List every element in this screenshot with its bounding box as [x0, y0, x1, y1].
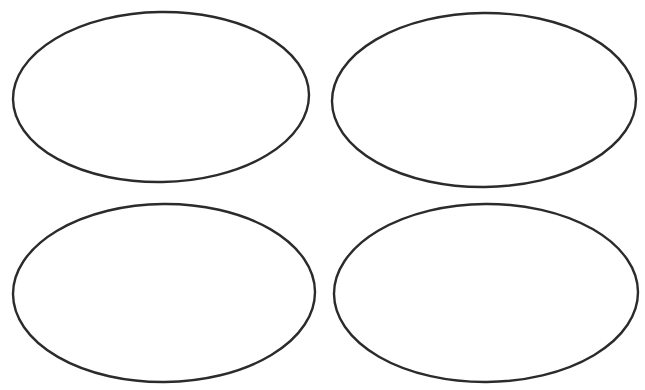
- diagram-canvas: [0, 0, 645, 390]
- ellipse-bottom-right[interactable]: [333, 203, 638, 383]
- ellipse-top-right[interactable]: [331, 11, 637, 188]
- ellipse-bottom-left[interactable]: [12, 203, 316, 384]
- ellipse-group: [0, 0, 645, 390]
